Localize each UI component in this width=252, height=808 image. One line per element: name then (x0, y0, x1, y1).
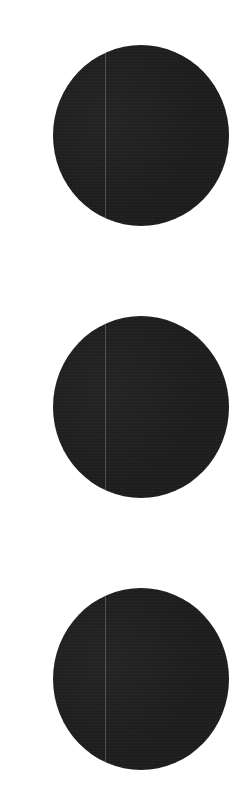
more-options-button[interactable] (0, 0, 252, 808)
ellipsis-dot-bottom (53, 588, 229, 770)
scan-line-artifact (105, 45, 106, 226)
scan-line-artifact (105, 316, 106, 498)
scan-line-artifact (105, 588, 106, 770)
ellipsis-dot-top (53, 45, 229, 226)
ellipsis-dot-middle (53, 316, 229, 498)
